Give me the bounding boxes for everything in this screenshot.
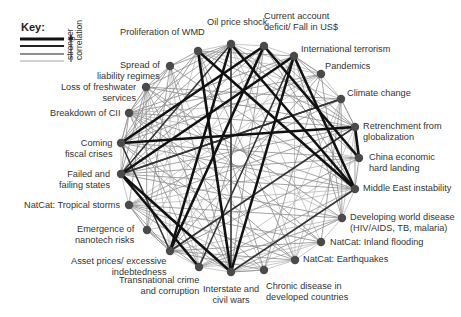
edge-terror-devworld (294, 56, 342, 218)
label-mideast: Middle East instability (363, 183, 451, 194)
key-caption-line2: correlation (75, 20, 84, 60)
node-asset (166, 247, 174, 255)
node-oil (227, 40, 235, 48)
node-cad (260, 42, 268, 50)
label-retrench: Retrenchment fromglobalization (363, 121, 442, 142)
label-quake: NatCat: Earthquakes (303, 254, 388, 265)
edge-asset-nano (147, 230, 170, 251)
key-title: Key: (21, 21, 45, 33)
label-chronic: Chronic disease indeveloped countries (266, 281, 348, 302)
label-cii: Breakdown of CII (50, 108, 120, 119)
node-liability (166, 62, 174, 70)
label-china: China economichard landing (369, 152, 435, 173)
node-wars (227, 268, 235, 276)
label-fiscal: Comingfiscal crises (65, 138, 112, 159)
label-oil: Oil price shock (207, 17, 267, 28)
key-caption: stronger correlation (66, 20, 84, 60)
edge-liability-wmd (170, 51, 198, 66)
edge-fiscal-retrench (121, 127, 355, 143)
node-crime (195, 263, 203, 271)
node-mideast (351, 185, 359, 193)
node-retrench (351, 123, 359, 131)
node-quake (291, 256, 299, 264)
label-nano: Emergence ofnanotech risks (75, 224, 134, 245)
label-asset: Asset prices/ excessiveindebtedness (71, 256, 166, 277)
node-failed (117, 170, 125, 178)
node-fiscal (117, 139, 125, 147)
node-wmd (194, 47, 202, 55)
label-terror: International terrorism (301, 44, 390, 55)
node-china (355, 154, 363, 162)
label-tropical: NatCat: Tropical storms (24, 200, 120, 211)
node-nano (143, 226, 151, 234)
label-wmd: Proliferation of WMD (120, 27, 205, 38)
edge-china-mideast (355, 158, 359, 189)
key-legend-lines (20, 39, 64, 61)
node-pandemics (317, 70, 325, 78)
node-cii (125, 109, 133, 117)
node-terror (290, 52, 298, 60)
label-cad: Current accountdeficit/ Fall in US$ (264, 11, 338, 32)
node-chronic (260, 266, 268, 274)
edge-climate-retrench (341, 99, 355, 127)
node-fresh (142, 83, 150, 91)
label-climate: Climate change (347, 88, 411, 99)
label-devworld: Developing world disease(HIV/AIDS, TB, m… (350, 212, 455, 233)
node-climate (337, 95, 345, 103)
label-pandemics: Pandemics (325, 61, 370, 72)
edge-wmd-wars (198, 51, 231, 272)
node-flood (317, 238, 325, 246)
label-liability: Spread ofliability regimes (97, 60, 160, 81)
node-devworld (338, 214, 346, 222)
label-failed: Failed andfailing states (59, 169, 110, 190)
label-crime: Transnational crimeand corruption (119, 275, 199, 296)
label-flood: NatCat: Inland flooding (330, 237, 423, 248)
label-wars: Interstate andcivil wars (203, 284, 259, 305)
label-fresh: Loss of freshwaterservices (61, 82, 136, 103)
node-tropical (125, 201, 133, 209)
